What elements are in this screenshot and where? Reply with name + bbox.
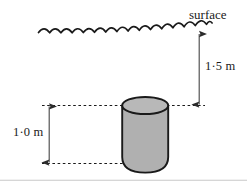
water-surface-icon — [39, 21, 213, 33]
depth-measurement-label: 1·5 m — [205, 60, 236, 73]
cylinder — [122, 97, 168, 173]
cylinder-height-measurement-label: 1·0 m — [13, 126, 44, 139]
water-surface-label: surface — [189, 8, 227, 21]
figure-root: surface 1·5 m 1·0 m — [0, 0, 247, 185]
cylinder-top-ellipse — [122, 97, 168, 114]
diagram-canvas — [0, 0, 247, 185]
